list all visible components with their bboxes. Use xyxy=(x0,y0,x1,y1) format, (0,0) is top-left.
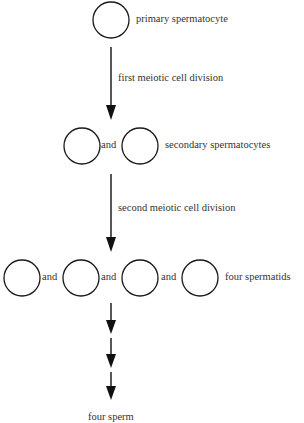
secondary-spermatocyte-cell-1 xyxy=(64,128,100,164)
spermatid-cell-4 xyxy=(182,260,218,296)
secondary-spermatocyte-cell-2 xyxy=(122,128,158,164)
spermatid-cell-3 xyxy=(122,260,158,296)
four-spermatids-label: four spermatids xyxy=(225,271,291,283)
four-sperm-label: four sperm xyxy=(88,411,134,423)
second-division-arrow xyxy=(106,174,116,252)
secondary-spermatocytes-label: secondary spermatocytes xyxy=(165,139,270,151)
and-connector: and xyxy=(161,271,176,283)
and-connector: and xyxy=(101,139,116,151)
primary-spermatocyte-cell xyxy=(93,2,129,38)
second-division-label: second meiotic cell division xyxy=(118,202,236,214)
primary-spermatocyte-label: primary spermatocyte xyxy=(136,13,228,25)
spermatid-cell-2 xyxy=(63,260,99,296)
and-connector: and xyxy=(101,271,116,283)
differentiation-arrow-3 xyxy=(106,372,116,400)
and-connector: and xyxy=(42,271,57,283)
first-division-label: first meiotic cell division xyxy=(118,72,223,84)
spermatid-cell-1 xyxy=(4,260,40,296)
differentiation-arrow-1 xyxy=(106,303,116,334)
differentiation-arrow-2 xyxy=(106,338,116,368)
first-division-arrow xyxy=(106,47,116,120)
